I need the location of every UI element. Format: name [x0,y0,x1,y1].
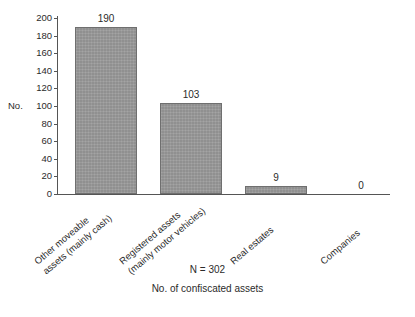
y-axis-tick-label: 100 [22,101,52,111]
plot-area: 19010390 [57,18,390,194]
bar-value-label: 190 [75,13,137,24]
y-axis-tick-mark [54,194,57,195]
bar-value-label: 103 [160,89,222,100]
y-axis-tick-label: 40 [22,154,52,164]
y-axis-tick-label: 80 [22,119,52,129]
y-axis-tick-label: 60 [22,136,52,146]
y-axis-tick-label: 140 [22,66,52,76]
bar [75,27,137,194]
y-axis-tick-label: 20 [22,171,52,181]
y-axis-tick-label: 180 [22,31,52,41]
y-axis-tick-label: 120 [22,83,52,93]
sample-size-note: N = 302 [0,264,415,275]
y-axis-title: No. [8,101,23,111]
bar-value-label: 9 [245,172,307,183]
x-axis-title: No. of confiscated assets [0,283,415,294]
bar [160,103,222,194]
bar-chart-figure: 020406080100No.120140160180200 19010390 … [0,0,415,317]
bar-value-label: 0 [330,180,392,191]
y-axis-tick-label: 0 [22,189,52,199]
y-axis-tick-label: 160 [22,48,52,58]
bar [245,186,307,194]
y-axis-tick-label: 200 [22,13,52,23]
